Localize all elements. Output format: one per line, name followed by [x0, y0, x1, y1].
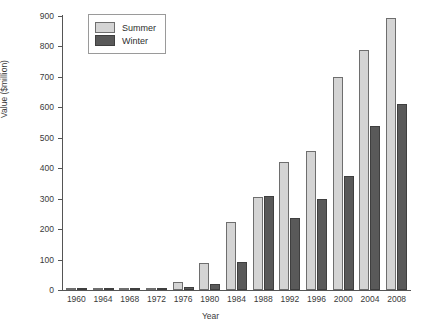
bar-group	[306, 16, 327, 290]
y-axis-tick-label: 200	[0, 224, 54, 234]
y-axis-tick-label: 700	[0, 72, 54, 82]
bar-summer-1984[interactable]	[226, 222, 236, 291]
bar-winter-1972[interactable]	[157, 288, 167, 290]
x-axis-tick-label: 1992	[280, 294, 299, 304]
x-axis-tick-label: 1968	[120, 294, 139, 304]
y-axis-tick-label: 500	[0, 133, 54, 143]
bar-summer-1988[interactable]	[253, 197, 263, 290]
x-axis-tick-label: 1980	[200, 294, 219, 304]
bar-group	[333, 16, 354, 290]
x-axis-line	[62, 290, 411, 291]
legend-label-winter: Winter	[122, 36, 148, 46]
bar-group	[199, 16, 220, 290]
bar-winter-2008[interactable]	[397, 104, 407, 290]
bar-summer-1992[interactable]	[279, 162, 289, 290]
legend-item-winter: Winter	[95, 35, 156, 46]
bar-chart: Value ($million) Year 010020030040050060…	[0, 0, 421, 331]
plot-area	[63, 16, 410, 290]
bar-summer-1972[interactable]	[146, 288, 156, 290]
legend-swatch-summer-icon	[95, 22, 115, 33]
bar-winter-1960[interactable]	[77, 288, 87, 290]
x-axis-tick-label: 2008	[387, 294, 406, 304]
bar-summer-2008[interactable]	[386, 18, 396, 290]
x-axis-tick-label: 2004	[360, 294, 379, 304]
bar-group	[119, 16, 140, 290]
bar-summer-1960[interactable]	[66, 288, 76, 290]
legend-swatch-winter-icon	[95, 35, 115, 46]
y-axis-tick-label: 0	[0, 285, 54, 295]
bar-group	[279, 16, 300, 290]
x-axis-tick-label: 2000	[334, 294, 353, 304]
bar-winter-1980[interactable]	[210, 284, 220, 290]
x-axis-tick-label: 1964	[94, 294, 113, 304]
bar-winter-1996[interactable]	[317, 199, 327, 290]
x-axis-title: Year	[0, 311, 421, 321]
bar-group	[93, 16, 114, 290]
bar-group	[146, 16, 167, 290]
y-axis-tick-label: 600	[0, 102, 54, 112]
bar-winter-1964[interactable]	[104, 288, 114, 290]
legend-item-summer: Summer	[95, 22, 156, 33]
x-axis-tick-label: 1976	[174, 294, 193, 304]
bar-winter-1988[interactable]	[264, 196, 274, 290]
bar-winter-1976[interactable]	[184, 287, 194, 290]
bar-group	[173, 16, 194, 290]
bar-summer-1964[interactable]	[93, 288, 103, 290]
y-axis-tick-label: 400	[0, 163, 54, 173]
bar-group	[253, 16, 274, 290]
bar-winter-1984[interactable]	[237, 262, 247, 290]
bar-summer-1980[interactable]	[199, 263, 209, 290]
legend-label-summer: Summer	[122, 23, 156, 33]
bar-group	[359, 16, 380, 290]
legend: Summer Winter	[88, 14, 166, 54]
bar-group	[386, 16, 407, 290]
y-axis-tick-label: 300	[0, 194, 54, 204]
x-axis-tick-label: 1996	[307, 294, 326, 304]
bar-summer-1976[interactable]	[173, 282, 183, 290]
y-axis-tick-mark	[58, 290, 63, 291]
bar-winter-1992[interactable]	[290, 218, 300, 290]
bar-summer-1968[interactable]	[119, 288, 129, 290]
bar-summer-1996[interactable]	[306, 151, 316, 290]
y-axis-tick-label: 800	[0, 41, 54, 51]
y-axis-tick-label: 100	[0, 255, 54, 265]
x-axis-tick-label: 1988	[254, 294, 273, 304]
bar-summer-2004[interactable]	[359, 50, 369, 291]
bar-group	[226, 16, 247, 290]
x-axis-tick-label: 1984	[227, 294, 246, 304]
bar-winter-1968[interactable]	[130, 288, 140, 290]
x-axis-tick-label: 1960	[67, 294, 86, 304]
bar-summer-2000[interactable]	[333, 77, 343, 290]
x-axis-tick-label: 1972	[147, 294, 166, 304]
bar-group	[66, 16, 87, 290]
bar-winter-2000[interactable]	[344, 176, 354, 290]
bar-winter-2004[interactable]	[370, 126, 380, 290]
y-axis-tick-label: 900	[0, 11, 54, 21]
